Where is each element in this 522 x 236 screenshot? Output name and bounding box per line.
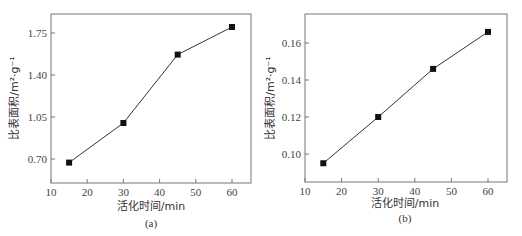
svg-text:10: 10 bbox=[300, 185, 312, 197]
x-axis-label-b: 活化时间/min bbox=[371, 196, 439, 210]
svg-text:30: 30 bbox=[118, 186, 130, 198]
svg-text:0.10: 0.10 bbox=[282, 148, 302, 160]
data-point-marker bbox=[430, 66, 436, 72]
figure: 0.701.051.401.75 102030405060 活化时间/min (… bbox=[0, 0, 522, 236]
svg-text:0.14: 0.14 bbox=[282, 74, 302, 86]
chart-a: 0.701.051.401.75 102030405060 活化时间/min (… bbox=[7, 14, 251, 230]
svg-text:0.12: 0.12 bbox=[282, 111, 301, 123]
svg-text:50: 50 bbox=[446, 185, 458, 197]
x-axis-label-a: 活化时间/min bbox=[117, 199, 185, 213]
y-axis-label-b: 比表面积/m²·g⁻¹ bbox=[263, 56, 277, 140]
data-point-marker bbox=[229, 24, 235, 30]
x-ticks-a: 102030405060 bbox=[46, 179, 239, 198]
svg-text:40: 40 bbox=[154, 186, 166, 198]
data-point-marker bbox=[175, 52, 181, 58]
svg-text:30: 30 bbox=[373, 185, 385, 197]
plot-frame-a bbox=[51, 14, 251, 183]
data-line-b bbox=[323, 32, 488, 163]
data-markers-b bbox=[320, 29, 491, 166]
data-line-a bbox=[69, 27, 232, 163]
data-markers-a bbox=[66, 24, 235, 166]
panel-caption-b: (b) bbox=[399, 212, 412, 225]
data-point-marker bbox=[66, 160, 72, 166]
svg-text:20: 20 bbox=[82, 186, 94, 198]
y-axis-label-a: 比表面积/m²·g⁻¹ bbox=[7, 56, 21, 140]
panel-caption-a: (a) bbox=[145, 217, 158, 230]
svg-text:0.70: 0.70 bbox=[28, 153, 48, 165]
data-point-marker bbox=[120, 120, 126, 126]
svg-text:10: 10 bbox=[46, 186, 58, 198]
svg-text:50: 50 bbox=[190, 186, 202, 198]
chart-b: 0.100.120.140.16 102030405060 活化时间/min (… bbox=[263, 14, 507, 225]
svg-text:20: 20 bbox=[336, 185, 348, 197]
svg-text:60: 60 bbox=[483, 185, 495, 197]
svg-text:1.40: 1.40 bbox=[28, 69, 48, 81]
svg-text:40: 40 bbox=[409, 185, 421, 197]
data-point-marker bbox=[320, 160, 326, 166]
svg-text:60: 60 bbox=[227, 186, 239, 198]
svg-text:1.05: 1.05 bbox=[28, 111, 48, 123]
data-point-marker bbox=[485, 29, 491, 35]
data-point-marker bbox=[375, 114, 381, 120]
svg-text:1.75: 1.75 bbox=[28, 27, 48, 39]
svg-text:0.16: 0.16 bbox=[282, 37, 302, 49]
x-ticks-b: 102030405060 bbox=[300, 178, 495, 197]
